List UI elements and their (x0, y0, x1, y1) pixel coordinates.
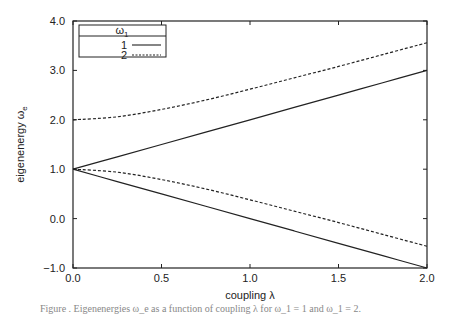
y-axis-label-text: eigenenergy ωe (14, 106, 29, 183)
legend: ω112 (79, 24, 166, 61)
legend-entry-label: 2 (121, 49, 127, 61)
y-tick-label: −1.0 (43, 262, 65, 274)
y-axis-label: eigenenergy ωe (14, 106, 29, 183)
series-1-upper (73, 70, 427, 169)
y-tick-label: 3.0 (50, 64, 65, 76)
x-tick-label: 1.0 (242, 272, 257, 284)
x-tick-label: 0.0 (65, 272, 80, 284)
x-axis-label: coupling λ (225, 289, 275, 301)
x-tick-label: 2.0 (419, 272, 434, 284)
x-tick-label: 0.5 (154, 272, 169, 284)
x-tick-label: 1.5 (331, 272, 346, 284)
data-series (73, 43, 427, 268)
y-tick-label: 1.0 (50, 163, 65, 175)
y-tick-label: 4.0 (50, 15, 65, 27)
figure-caption: Figure . Eigenenergies ω_e as a function… (40, 303, 449, 314)
series-2-lower (73, 169, 427, 246)
y-tick-label: 2.0 (50, 114, 65, 126)
y-tick-label: 0.0 (50, 213, 65, 225)
series-1-lower (73, 169, 427, 268)
